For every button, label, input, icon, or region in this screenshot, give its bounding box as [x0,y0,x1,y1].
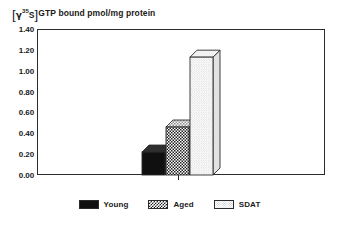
chart-legend: Young Aged SDAT [0,200,339,209]
legend-label-aged: Aged [173,200,193,209]
y-axis-tick-label: 0.40 [19,129,34,138]
y-axis-tick-label: 0.20 [19,150,34,159]
legend-swatch-young-icon [79,200,99,209]
y-axis-tick-label: 0.80 [19,87,34,96]
y-axis-tick-label: 0.00 [19,171,34,180]
plot-area-frame [37,29,325,175]
y-axis-tick-label: 1.00 [19,66,34,75]
legend-item-sdat: SDAT [214,200,261,209]
legend-item-young: Young [79,200,129,209]
y-axis-tick-label: 1.40 [19,25,34,34]
x-axis-tick-mark [178,175,179,180]
bar-chart-figure: [γ35S]GTP bound pmol/mg protein 1.401.20… [0,0,339,228]
y-axis-tick-label: 0.60 [19,108,34,117]
legend-swatch-aged-icon [148,200,168,209]
legend-swatch-sdat-icon [214,200,234,209]
legend-label-sdat: SDAT [239,200,261,209]
legend-label-young: Young [104,200,129,209]
y-axis-tick-labels: 1.401.201.000.800.600.400.200.00 [0,0,34,228]
y-axis-tick-label: 1.20 [19,45,34,54]
title-main-text: GTP bound pmol/mg protein [38,8,155,18]
legend-item-aged: Aged [148,200,193,209]
